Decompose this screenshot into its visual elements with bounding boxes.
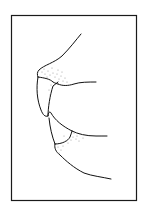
upper-gum-line	[58, 82, 96, 86]
upper-tooth-base	[38, 77, 58, 84]
jaw-illustration	[0, 0, 148, 207]
lower-jaw-outline	[55, 144, 111, 179]
upper-jaw	[37, 34, 96, 116]
lower-tooth-outline	[48, 112, 72, 131]
lower-gum-line	[72, 131, 107, 136]
lower-jaw	[48, 112, 111, 179]
upper-snout-outline	[37, 34, 81, 77]
lower-tooth-base	[55, 131, 72, 144]
lower-tooth-front	[49, 118, 55, 144]
